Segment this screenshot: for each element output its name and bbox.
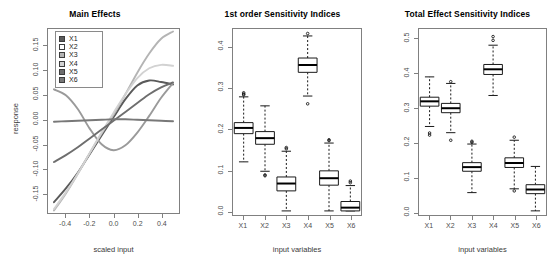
panel-first-order: 1st order Sensitivity Indices 0.00.10.20… (190, 0, 375, 271)
y-tick-label: 0.4 (403, 60, 410, 84)
first-order-plot-area (232, 28, 362, 216)
main-effects-xlabel: scaled input (47, 245, 180, 254)
axis-tick (414, 178, 418, 179)
axis-tick (228, 171, 232, 172)
y-tick-label: 0.2 (217, 116, 224, 140)
boxplot-x4 (484, 35, 503, 95)
legend-item-x4: X4 (59, 60, 98, 68)
total-effect-xlabel: input variables (418, 245, 547, 254)
y-tick-label: 0.0 (217, 199, 224, 223)
panel-total-effect-title: Total Effect Sensitivity Indices (375, 9, 560, 19)
legend-item-x2: X2 (59, 43, 98, 51)
axis-tick (450, 216, 451, 220)
boxplot-x5 (505, 136, 524, 192)
legend-item-x5: X5 (59, 68, 98, 76)
x-tick-label: -0.4 (52, 220, 78, 227)
boxplot-x3 (277, 146, 296, 211)
main-effects-ylabel: response (11, 96, 20, 142)
legend-item-x3: X3 (59, 51, 98, 59)
y-tick-label: 0.10 (32, 57, 39, 81)
axis-tick (243, 216, 244, 220)
legend-swatch-x5-icon (59, 69, 65, 75)
x-tick-label: X6 (523, 222, 549, 229)
axis-tick (536, 216, 537, 220)
y-tick-label: 0.3 (403, 95, 410, 119)
boxplot-x1 (234, 91, 253, 161)
x-tick-label: 0.2 (125, 220, 151, 227)
boxplot-x6 (341, 180, 360, 211)
y-tick-label: -0.15 (32, 181, 39, 205)
y-tick-label: -0.10 (32, 156, 39, 180)
boxplot-x5 (320, 138, 339, 210)
axis-tick (228, 129, 232, 130)
legend-label: X6 (69, 76, 78, 84)
first-order-boxplots (233, 29, 361, 215)
axis-tick (414, 38, 418, 39)
y-tick-label: 0.1 (217, 158, 224, 182)
boxplot-x6 (526, 166, 545, 210)
x-tick-label: -0.2 (76, 220, 102, 227)
axis-tick (414, 108, 418, 109)
first-order-xlabel: input variables (232, 245, 362, 254)
x-tick-label: 0.4 (149, 220, 175, 227)
boxplot-x4 (298, 32, 317, 105)
axis-tick (114, 214, 115, 218)
axis-tick (43, 194, 47, 195)
axis-tick (472, 216, 473, 220)
legend-label: X4 (69, 60, 78, 68)
total-effect-plot-area (418, 28, 547, 216)
axis-tick (308, 216, 309, 220)
legend-swatch-x6-icon (59, 77, 65, 83)
axis-tick (43, 169, 47, 170)
total-effect-boxplots (419, 29, 546, 215)
axis-tick (330, 216, 331, 220)
axis-tick (138, 214, 139, 218)
axis-tick (228, 212, 232, 213)
boxplot-x2 (441, 80, 460, 141)
y-tick-label: 0.1 (403, 165, 410, 189)
panel-main-effects: Main Effects -0.15-0.10-0.050.000.050.10… (0, 0, 190, 271)
axis-tick (493, 216, 494, 220)
legend-label: X5 (69, 68, 78, 76)
y-tick-label: 0.0 (403, 200, 410, 224)
x-tick-label: 0.0 (101, 220, 127, 227)
legend-item-x1: X1 (59, 35, 98, 43)
y-tick-label: 0.05 (32, 82, 39, 106)
axis-tick (414, 143, 418, 144)
axis-tick (414, 73, 418, 74)
axis-tick (265, 216, 266, 220)
boxplot-x2 (256, 106, 275, 177)
legend-swatch-x4-icon (59, 61, 65, 67)
y-tick-label: 0.3 (217, 75, 224, 99)
axis-tick (89, 214, 90, 218)
axis-tick (228, 88, 232, 89)
x-tick-label: X6 (338, 222, 364, 229)
sensitivity-analysis-figure: Main Effects -0.15-0.10-0.050.000.050.10… (0, 0, 560, 271)
y-tick-label: 0.2 (403, 130, 410, 154)
y-tick-label: 0.4 (217, 34, 224, 58)
axis-tick (429, 216, 430, 220)
axis-tick (515, 216, 516, 220)
y-tick-label: -0.05 (32, 132, 39, 156)
axis-tick (43, 95, 47, 96)
axis-tick (286, 216, 287, 220)
y-tick-label: 0.15 (32, 32, 39, 56)
legend-swatch-x2-icon (59, 44, 65, 50)
axis-tick (43, 45, 47, 46)
legend-label: X3 (69, 51, 78, 59)
legend-swatch-x1-icon (59, 36, 65, 42)
main-effects-legend: X1X2X3X4X5X6 (55, 31, 103, 88)
axis-tick (43, 120, 47, 121)
boxplot-x1 (420, 77, 439, 136)
axis-tick (43, 145, 47, 146)
panel-main-effects-title: Main Effects (0, 9, 190, 19)
axis-tick (414, 213, 418, 214)
y-tick-label: 0.00 (32, 107, 39, 131)
legend-item-x6: X6 (59, 76, 98, 84)
legend-label: X2 (69, 43, 78, 51)
axis-tick (228, 47, 232, 48)
axis-tick (43, 70, 47, 71)
axis-tick (351, 216, 352, 220)
panel-total-effect: Total Effect Sensitivity Indices 0.00.10… (375, 0, 560, 271)
panel-first-order-title: 1st order Sensitivity Indices (190, 9, 375, 19)
